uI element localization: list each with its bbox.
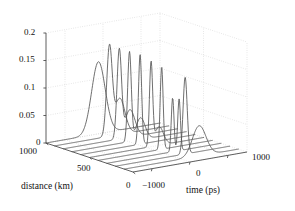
figure-root: 0.2 0.15 0.1 0.05 0 1000 500 0 −1000 0 1… bbox=[0, 0, 295, 211]
z-tick-label-0p15: 0.15 bbox=[19, 54, 35, 64]
x-tick-label-neg1000: −1000 bbox=[142, 180, 165, 190]
x-axis-title: time (ps) bbox=[186, 185, 220, 195]
waterfall-trace bbox=[72, 51, 186, 151]
z-tick-label-0p05: 0.05 bbox=[19, 110, 35, 120]
y-tick-label-1000: 1000 bbox=[19, 146, 37, 156]
y-tick-label-500: 500 bbox=[77, 163, 91, 173]
waterfall-trace bbox=[81, 55, 195, 155]
y-tick-label-0: 0 bbox=[126, 180, 131, 190]
waterfall-trace bbox=[55, 44, 169, 146]
z-tick-label-0p2: 0.2 bbox=[24, 27, 35, 37]
x-tick-label-1000: 1000 bbox=[252, 152, 270, 162]
axis-lines bbox=[43, 33, 247, 174]
y-axis-title: distance (km) bbox=[21, 181, 73, 191]
z-tick-label-0p1: 0.1 bbox=[24, 82, 35, 92]
data-curves bbox=[46, 44, 238, 169]
x-tick-label-0: 0 bbox=[196, 168, 201, 178]
